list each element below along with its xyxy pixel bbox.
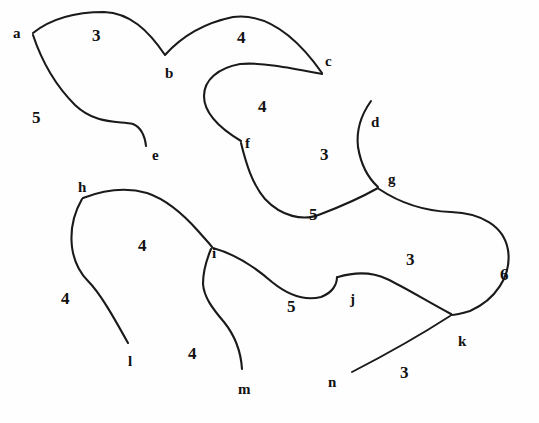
vertex-label-i: i [212,246,216,261]
weight-label-w-gk: 6 [500,266,509,283]
edge-h-i-curve [83,190,212,247]
vertex-label-f: f [245,136,250,151]
vertex-label-l: l [128,354,132,369]
vertex-label-n: n [328,375,336,390]
vertex-label-c: c [325,54,332,69]
vertex-label-a: a [13,26,21,41]
curve-diagram-svg [0,0,539,423]
edge-g-k-curve [379,189,509,315]
weight-label-w-hl: 4 [61,290,70,307]
weight-label-w-fg: 3 [320,146,329,163]
vertex-label-b: b [165,66,173,81]
weight-label-w-bc: 4 [237,29,246,46]
weight-label-w-im: 4 [188,345,197,362]
vertex-label-e: e [152,148,159,163]
weight-label-w-nk: 3 [400,364,409,381]
weight-label-w-hi: 4 [138,237,147,254]
edge-i-m-curve [203,249,242,369]
vertex-label-h: h [78,180,86,195]
edge-a-b-c-curve [33,12,322,73]
weight-label-w-ae: 5 [32,109,41,126]
edge-h-l-curve [71,199,128,343]
weight-label-w-ij: 5 [287,298,296,315]
weight-label-w-ab: 3 [92,27,101,44]
vertex-label-d: d [371,115,379,130]
vertex-label-j: j [350,292,355,307]
weight-label-w-fg2: 5 [309,206,318,223]
edge-a-e-curve [33,35,146,146]
edge-i-j-curve [213,248,337,298]
weight-label-w-jg: 3 [406,251,415,268]
vertex-label-g: g [388,172,396,187]
vertex-label-m: m [238,382,251,397]
diagram-canvas: abcdefghijklmn 3454354445363 [0,0,539,423]
vertex-label-k: k [458,334,466,349]
weight-label-w-cf: 4 [258,98,267,115]
